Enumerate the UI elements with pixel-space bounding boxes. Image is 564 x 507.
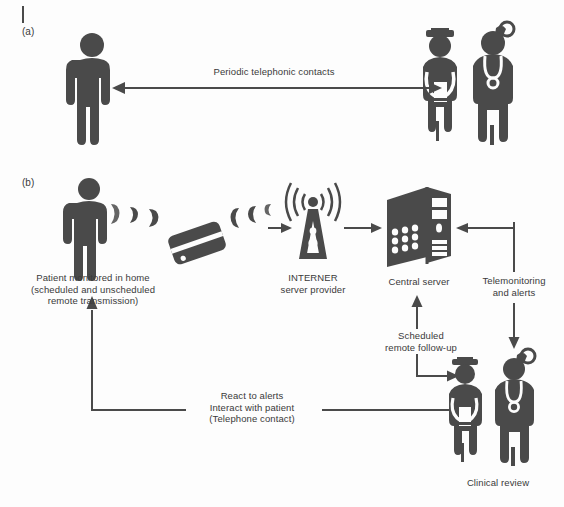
periodic-contacts-arrow [112,80,442,96]
line-clinician-to-react [322,405,450,415]
nurse-clinical-icon [444,355,488,465]
figure-canvas: (a) Periodic telephonic contacts (b) [0,0,564,507]
central-server-icon [383,186,455,270]
panel-a-tag: (a) [22,26,34,37]
panel-b-tag: (b) [22,177,34,188]
scheduled-followup-label: Scheduled remote follow-up [373,330,469,353]
telemonitoring-elbow-line [508,222,522,272]
clinical-review-label: Clinical review [448,477,548,489]
wireless-wave-right-icon [228,200,274,240]
patient-icon [68,32,116,142]
arrow-telemonitoring-to-server [456,222,514,234]
transmitter-device-icon [166,222,228,264]
arrow-tower-to-server [344,222,382,234]
physician-clinical-icon [489,347,543,467]
internet-tower-icon [282,183,344,261]
feedback-loop-arrow [86,296,186,416]
arrow-followup-to-server [411,295,425,329]
patient-home-label: Patient monitored in home (scheduled and… [13,272,173,307]
telemonitoring-label: Telemonitoring and alerts [467,275,561,298]
patient-home-icon [66,177,112,277]
page-margin-mark [22,6,24,23]
internet-tower-label: INTERNER server provider [263,272,363,295]
wireless-wave-left-icon [108,198,170,238]
physician-icon [466,20,522,146]
react-to-alerts-label: React to alerts Interact with patient (T… [182,390,322,425]
arrow-telemonitoring-to-clinician [508,303,522,349]
periodic-contacts-label: Periodic telephonic contacts [164,66,384,78]
central-server-label: Central server [379,276,459,288]
